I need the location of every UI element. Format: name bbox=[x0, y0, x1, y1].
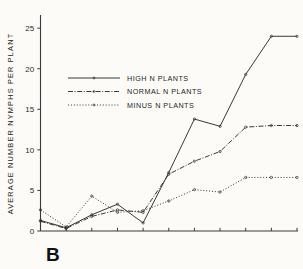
legend-label-1: NORMAL N PLANTS bbox=[127, 87, 202, 96]
data-point-marker bbox=[91, 215, 93, 217]
y-axis-ticks: 0510152025 bbox=[25, 24, 40, 236]
legend-label-0: HIGH N PLANTS bbox=[127, 74, 189, 83]
chart-axes bbox=[41, 15, 299, 231]
series-line-0 bbox=[41, 36, 298, 227]
series-line-1 bbox=[41, 126, 298, 229]
data-point-marker bbox=[142, 210, 144, 212]
y-tick-label: 0 bbox=[30, 227, 35, 236]
data-point-marker bbox=[116, 209, 118, 211]
y-tick-label: 15 bbox=[25, 105, 35, 114]
y-tick-label: 25 bbox=[25, 24, 35, 33]
data-point-marker bbox=[245, 176, 247, 178]
data-series-group bbox=[39, 35, 298, 230]
panel-label-text: B bbox=[46, 244, 60, 265]
data-point-marker bbox=[91, 195, 93, 197]
data-point-marker bbox=[168, 173, 170, 175]
y-tick-label: 20 bbox=[25, 65, 35, 74]
data-point-marker bbox=[116, 211, 118, 213]
y-axis-label-text: AVERAGE NUMBER NYMPHS PER PLANT bbox=[6, 33, 15, 215]
data-point-marker bbox=[219, 191, 221, 193]
legend-marker-2 bbox=[93, 104, 95, 106]
line-chart: 0510152025 AVERAGE NUMBER NYMPHS PER PLA… bbox=[0, 0, 303, 269]
y-tick-label: 10 bbox=[25, 146, 35, 155]
legend-label-2: MINUS N PLANTS bbox=[127, 101, 194, 110]
panel-label-b: B bbox=[46, 244, 60, 265]
data-point-marker bbox=[296, 176, 298, 178]
data-point-marker bbox=[270, 176, 272, 178]
chart-legend: HIGH N PLANTSNORMAL N PLANTSMINUS N PLAN… bbox=[68, 74, 202, 110]
y-axis-title: AVERAGE NUMBER NYMPHS PER PLANT bbox=[6, 33, 15, 215]
figure-panel-b: 0510152025 AVERAGE NUMBER NYMPHS PER PLA… bbox=[0, 0, 303, 269]
data-point-marker bbox=[245, 126, 247, 128]
data-point-marker bbox=[193, 188, 195, 190]
y-tick-label: 5 bbox=[30, 186, 35, 195]
